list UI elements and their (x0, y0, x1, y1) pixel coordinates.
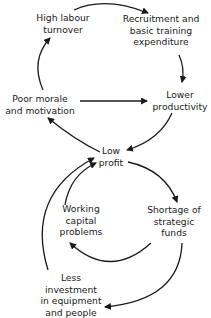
node-label-line: Shortage of (143, 204, 205, 216)
node-working-capital: Working capital problems (56, 203, 106, 238)
node-label-line: Poor morale (2, 93, 78, 105)
arrow-recruitment-to-productivity (179, 55, 183, 82)
node-low-profit: Low profit (96, 145, 126, 168)
node-recruitment-training: Recruitment and basic training expenditu… (118, 13, 204, 48)
node-lower-productivity: Lower productivity (150, 89, 210, 112)
node-label-line: Working (56, 203, 106, 215)
node-high-labour-turnover: High labour turnover (30, 12, 96, 35)
node-label-line: Lower (150, 89, 210, 101)
node-label-line: investment (40, 284, 102, 296)
arrow-profit-to-shortage (128, 162, 177, 202)
node-label-line: problems (56, 226, 106, 238)
arrow-working-capital-to-profit (65, 163, 96, 205)
arrow-morale-to-turnover (38, 38, 50, 90)
arrow-shortage-to-investment (105, 243, 182, 307)
arrow-profit-to-morale (48, 118, 100, 152)
node-shortage-funds: Shortage of strategic funds (143, 204, 205, 239)
node-label-line: turnover (30, 24, 96, 36)
node-label-line: and people (40, 307, 102, 318)
node-label-line: strategic (143, 216, 205, 228)
node-label-line: expenditure (118, 36, 204, 48)
node-label-line: High labour (30, 12, 96, 24)
node-label-line: profit (96, 157, 126, 169)
arrow-productivity-to-profit (127, 113, 172, 150)
node-poor-morale: Poor morale and motivation (2, 93, 78, 116)
arrow-shortage-to-working-capital (70, 243, 151, 262)
node-label-line: capital (56, 215, 106, 227)
node-less-investment: Less investment in equipment and people (40, 272, 102, 318)
node-label-line: basic training (118, 25, 204, 37)
node-label-line: Low (96, 145, 126, 157)
node-label-line: and motivation (2, 105, 78, 117)
node-label-line: funds (143, 227, 205, 239)
node-label-line: Recruitment and (118, 13, 204, 25)
node-label-line: in equipment (40, 295, 102, 307)
node-label-line: Less (40, 272, 102, 284)
node-label-line: productivity (150, 101, 210, 113)
